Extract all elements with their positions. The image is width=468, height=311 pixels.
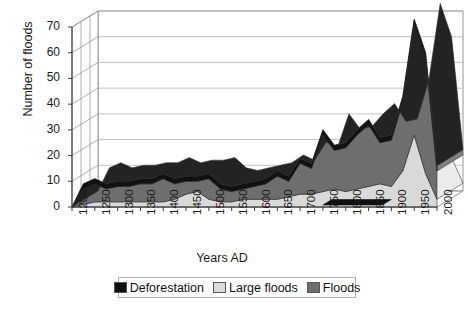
x-tick-label: 1900 xyxy=(396,189,408,215)
x-tick-label: 1850 xyxy=(374,189,386,215)
x-tick-label: 1300 xyxy=(123,189,135,215)
x-axis-title-text: Years AD xyxy=(196,251,248,265)
x-tick-label: 1200 xyxy=(77,189,89,215)
legend-label: Large floods xyxy=(229,281,298,295)
legend-item: Floods xyxy=(307,281,361,295)
x-axis-title: Years AD xyxy=(0,251,468,265)
x-tick-label: 1250 xyxy=(100,189,112,215)
x-tick-label: 1600 xyxy=(260,189,272,215)
x-tick-label: 1350 xyxy=(145,189,157,215)
legend-label: Deforestation xyxy=(130,281,204,295)
x-tick-label: 1450 xyxy=(191,189,203,215)
x-tick-label: 1500 xyxy=(214,189,226,215)
legend-swatch-icon xyxy=(307,282,320,293)
x-tick-label: 1550 xyxy=(237,189,249,215)
legend-swatch-icon xyxy=(213,282,226,293)
flood-chart: Number of floods 010203040506070 1200125… xyxy=(0,0,468,311)
x-tick-label: 2000 xyxy=(442,189,454,215)
x-tick-label: 1400 xyxy=(168,189,180,215)
chart-legend: DeforestationLarge floodsFloods xyxy=(118,277,356,298)
legend-item: Deforestation xyxy=(114,281,204,295)
legend-swatch-icon xyxy=(114,282,127,293)
x-tick-label: 1650 xyxy=(282,189,294,215)
x-tick-label: 1700 xyxy=(305,189,317,215)
legend-item: Large floods xyxy=(213,281,298,295)
x-tick-label: 1950 xyxy=(419,189,431,215)
legend-label: Floods xyxy=(323,281,361,295)
x-tick-label: 1750 xyxy=(328,189,340,215)
x-tick-label: 1800 xyxy=(351,189,363,215)
